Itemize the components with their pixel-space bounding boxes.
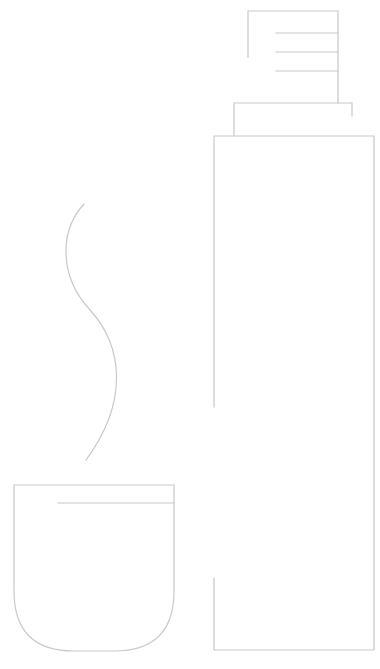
cap-outline — [248, 11, 338, 103]
bottle-cap — [248, 11, 338, 103]
bottle-collar — [234, 103, 352, 136]
cup-outline — [14, 485, 174, 651]
steam-curve — [66, 204, 117, 460]
line-art — [14, 11, 374, 651]
bottle-body — [214, 136, 374, 650]
collar-outline — [234, 103, 352, 136]
thermos-illustration — [0, 0, 380, 669]
illustration-canvas: Thermos bottle and cup line drawing — [0, 0, 380, 669]
cup — [14, 485, 174, 651]
body-outline — [214, 136, 374, 650]
